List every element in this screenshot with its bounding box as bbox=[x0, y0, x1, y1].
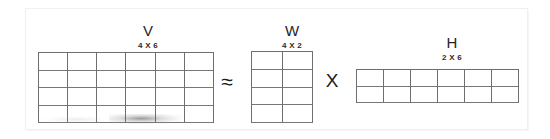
matrix-cell bbox=[97, 88, 126, 106]
matrix-cell bbox=[185, 88, 214, 106]
matrix-cell bbox=[126, 53, 155, 71]
matrix-cell bbox=[39, 53, 68, 71]
matrix-cell bbox=[492, 87, 519, 104]
matrix-cell bbox=[126, 88, 155, 106]
matrix-cell bbox=[126, 71, 155, 89]
matrix-cell bbox=[156, 106, 185, 124]
matrix-cell bbox=[252, 52, 283, 70]
matrix-cell bbox=[411, 87, 438, 104]
matrix-h-dims-label: 2 X 6 bbox=[432, 54, 472, 62]
matrix-cell bbox=[492, 70, 519, 87]
matrix-cell bbox=[438, 87, 465, 104]
matrix-cell bbox=[68, 106, 97, 124]
matrix-v-label: V bbox=[113, 23, 183, 38]
matrix-cell bbox=[252, 88, 283, 106]
matrix-cell bbox=[465, 87, 492, 104]
matrix-h-grid bbox=[356, 69, 519, 103]
matrix-cell bbox=[283, 88, 314, 106]
matrix-cell bbox=[357, 87, 384, 104]
matrix-cell bbox=[68, 71, 97, 89]
approximately-equal-icon: ≈ bbox=[216, 71, 238, 92]
matrix-h-label: H bbox=[432, 35, 472, 50]
matrix-cell bbox=[39, 88, 68, 106]
matrix-cell bbox=[185, 71, 214, 89]
matrix-v-grid bbox=[38, 52, 214, 123]
matrix-cell bbox=[156, 71, 185, 89]
matrix-cell bbox=[156, 88, 185, 106]
matrix-cell bbox=[68, 53, 97, 71]
matrix-cell bbox=[252, 70, 283, 88]
diagram-canvas: V 4 X 6 bbox=[0, 0, 550, 139]
matrix-cell bbox=[438, 70, 465, 87]
matrix-cell bbox=[97, 53, 126, 71]
matrix-cell bbox=[97, 106, 126, 124]
matrix-cell bbox=[126, 106, 155, 124]
matrix-cell bbox=[465, 70, 492, 87]
matrix-w-label: W bbox=[272, 23, 312, 38]
matrix-cell bbox=[185, 106, 214, 124]
matrix-cell bbox=[384, 87, 411, 104]
matrix-cell bbox=[185, 53, 214, 71]
matrix-w-grid bbox=[251, 51, 313, 123]
matrix-cell bbox=[283, 105, 314, 123]
matrix-cell bbox=[252, 105, 283, 123]
matrix-w-dims-label: 4 X 2 bbox=[272, 42, 312, 50]
matrix-cell bbox=[283, 70, 314, 88]
figure-frame: V 4 X 6 bbox=[25, 8, 528, 130]
matrix-cell bbox=[68, 88, 97, 106]
multiplication-icon: X bbox=[322, 71, 342, 90]
matrix-cell bbox=[283, 52, 314, 70]
matrix-cell bbox=[39, 106, 68, 124]
matrix-cell bbox=[156, 53, 185, 71]
matrix-cell bbox=[357, 70, 384, 87]
matrix-cell bbox=[39, 71, 68, 89]
matrix-cell bbox=[384, 70, 411, 87]
matrix-cell bbox=[411, 70, 438, 87]
matrix-cell bbox=[97, 71, 126, 89]
matrix-v-dims-label: 4 X 6 bbox=[118, 42, 178, 50]
